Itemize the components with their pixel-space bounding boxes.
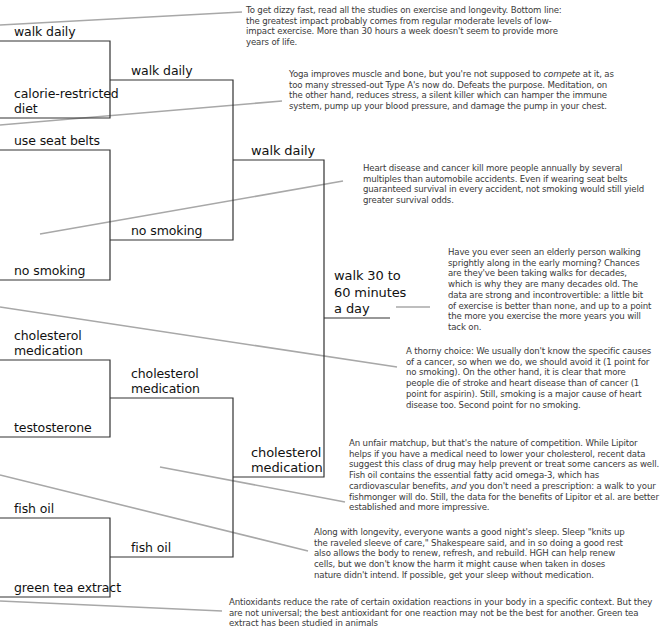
round1-green-tea-extract: green tea extract <box>14 580 121 595</box>
label-line: 60 minutes <box>334 285 406 302</box>
round3-walk-daily: walk daily <box>251 143 315 158</box>
bracket-pair-r3 <box>233 160 324 477</box>
note-text: An unfair matchup, but that's the nature… <box>349 438 659 513</box>
bracket-lines <box>0 41 390 597</box>
note-text-emphasis: compete <box>543 69 580 79</box>
label-line: a day <box>334 301 406 318</box>
note-text: Have you ever seen an elderly person wal… <box>448 247 653 333</box>
note-text: To get dizzy fast, read all the studies … <box>246 5 566 48</box>
note-text: Along with longevity, everyone wants a g… <box>314 527 634 581</box>
note-lipitor: An unfair matchup, but that's the nature… <box>349 438 659 513</box>
round1-fish-oil: fish oil <box>14 501 54 516</box>
round1-no-smoking: no smoking <box>14 263 85 278</box>
winner-walk-30-to-60-minutes: walk 30 to 60 minutes a day <box>334 268 406 318</box>
label-line: walk 30 to <box>334 268 406 285</box>
note-text: Antioxidants reduce the rate of certain … <box>229 597 662 629</box>
label-line: medication <box>14 343 83 358</box>
label-line: diet <box>14 101 119 116</box>
bracket-pair-2 <box>0 150 110 280</box>
label-line: calorie-restricted <box>14 86 119 101</box>
round1-cholesterol-medication: cholesterol medication <box>14 328 83 358</box>
round2-fish-oil: fish oil <box>131 540 171 555</box>
note-walking: Have you ever seen an elderly person wal… <box>448 247 653 333</box>
label-line: medication <box>251 460 323 475</box>
note-text: Heart disease and cancer kill more peopl… <box>363 163 648 206</box>
label-line: cholesterol <box>251 445 323 460</box>
label-line: cholesterol <box>131 366 200 381</box>
note-text-emphasis: and <box>451 481 467 491</box>
note-text: A thorny choice: We usually don't know t… <box>406 346 656 410</box>
round2-cholesterol-medication: cholesterol medication <box>131 366 200 396</box>
label-line: medication <box>131 381 200 396</box>
round1-calorie-restricted-diet: calorie-restricted diet <box>14 86 119 116</box>
note-sleep: Along with longevity, everyone wants a g… <box>314 527 634 581</box>
note-smoking: A thorny choice: We usually don't know t… <box>406 346 656 410</box>
round1-walk-daily: walk daily <box>14 24 76 39</box>
label-line: cholesterol <box>14 328 83 343</box>
note-yoga: Yoga improves muscle and bone, but you'r… <box>289 69 619 112</box>
leader-line-antioxidants <box>0 601 222 611</box>
round1-testosterone: testosterone <box>14 420 92 435</box>
round2-walk-daily: walk daily <box>131 63 193 78</box>
note-text: Yoga improves muscle and bone, but you'r… <box>289 69 619 112</box>
note-exercise: To get dizzy fast, read all the studies … <box>246 5 566 48</box>
round1-use-seat-belts: use seat belts <box>14 133 100 148</box>
note-text-part: Yoga improves muscle and bone, but you'r… <box>289 69 543 79</box>
note-antioxidants: Antioxidants reduce the rate of certain … <box>229 597 662 629</box>
round3-cholesterol-medication: cholesterol medication <box>251 445 323 475</box>
round2-no-smoking: no smoking <box>131 223 202 238</box>
bracket-pair-r2-1 <box>110 80 233 240</box>
note-seatbelts: Heart disease and cancer kill more peopl… <box>363 163 648 206</box>
